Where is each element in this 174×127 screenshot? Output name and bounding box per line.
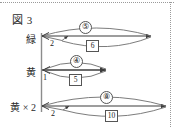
diagram-canvas xyxy=(0,0,174,127)
row-green-lower-arc xyxy=(62,37,151,47)
row-yellow2-weight-label: 2 xyxy=(51,109,55,118)
row-green-lower-label: 6 xyxy=(86,40,99,52)
row-yellow2-lower-label: 10 xyxy=(105,110,118,122)
row-yellow-weight-label: 1 xyxy=(43,73,47,82)
row-green-upper-arc xyxy=(42,28,151,36)
row-green-weight-label: 2 xyxy=(50,39,54,48)
figure-screenshot: 図 3 緑 黄 黄 × 2 xyxy=(0,0,174,127)
row-yellow-lower-label: 5 xyxy=(69,74,82,86)
row-yellow2-upper-label: ⑧ xyxy=(100,91,113,104)
row-green-weight-tick xyxy=(62,36,68,41)
row-yellow-upper-label: ④ xyxy=(70,55,83,68)
row-green-upper-label: ⑤ xyxy=(79,21,92,34)
